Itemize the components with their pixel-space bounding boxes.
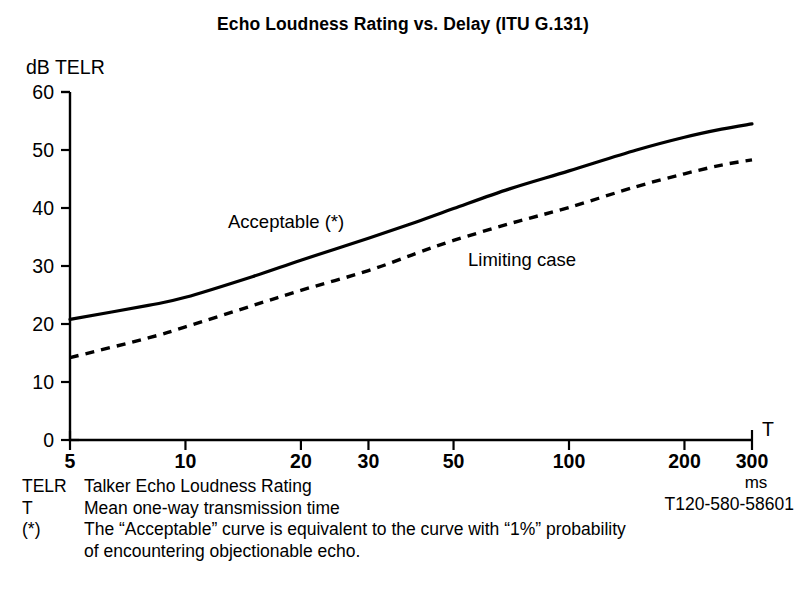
x-tick-label-10: 10 xyxy=(175,450,197,472)
figure-footnotes: TELR Talker Echo Loudness Rating T Mean … xyxy=(22,476,792,562)
y-tick-label-30: 30 xyxy=(32,255,54,277)
y-tick-label-40: 40 xyxy=(32,197,54,219)
footnote-key-telr: TELR xyxy=(22,476,84,498)
x-tick-label-200: 200 xyxy=(668,450,701,472)
y-tick-label-60: 60 xyxy=(32,81,54,103)
x-tick-label-50: 50 xyxy=(443,450,465,472)
x-tick-label-30: 30 xyxy=(358,450,380,472)
x-tick-label-20: 20 xyxy=(290,450,312,472)
footnote-continuation: of encountering objectionable echo. xyxy=(22,541,792,563)
x-axis-name-label: T xyxy=(762,418,774,440)
y-tick-label-20: 20 xyxy=(32,313,54,335)
x-tick-label-300: 300 xyxy=(736,450,769,472)
footnote-row-asterisk: (*) The “Acceptable” curve is equivalent… xyxy=(22,519,792,541)
figure-echo-loudness-rating: Echo Loudness Rating vs. Delay (ITU G.13… xyxy=(0,0,806,612)
curve-label-acceptable: Acceptable (*) xyxy=(228,211,344,232)
footnote-key-t: T xyxy=(22,498,84,520)
footnote-text-asterisk: The “Acceptable” curve is equivalent to … xyxy=(84,519,792,541)
curve-label-limiting-case: Limiting case xyxy=(468,249,576,270)
x-tick-label-100: 100 xyxy=(553,450,586,472)
curve-acceptable xyxy=(70,124,752,319)
y-tick-label-0: 0 xyxy=(43,429,54,451)
x-tick-label-5: 5 xyxy=(65,450,76,472)
figure-id-label: T120-580-58601 xyxy=(665,494,794,515)
y-axis-name-label: dB TELR xyxy=(26,56,105,78)
axis-lines xyxy=(70,92,752,440)
y-tick-label-50: 50 xyxy=(32,139,54,161)
y-tick-label-10: 10 xyxy=(32,371,54,393)
curve-limiting-case xyxy=(70,160,752,358)
footnote-key-asterisk: (*) xyxy=(22,519,84,541)
